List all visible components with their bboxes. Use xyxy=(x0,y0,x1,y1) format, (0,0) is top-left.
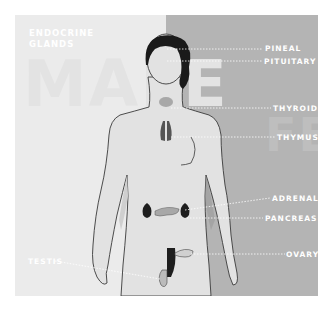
body-outline xyxy=(93,77,238,296)
label-pancreas: PANCREAS xyxy=(265,214,318,223)
label-adrenal: ADRENAL xyxy=(272,194,318,203)
label-ovary: OVARY xyxy=(286,250,318,259)
endocrine-diagram: MALE FEMALE xyxy=(15,15,318,296)
label-pituitary: PITUITARY xyxy=(264,57,316,66)
label-pineal: PINEAL xyxy=(265,44,301,53)
diagram-title: ENDOCRINE GLANDS xyxy=(29,28,94,50)
label-thyroid: THYROID xyxy=(273,104,318,113)
testis-gland xyxy=(159,270,167,287)
title-line-1: ENDOCRINE xyxy=(29,28,94,39)
label-thymus: THYMUS xyxy=(277,133,318,142)
label-testis: TESTIS xyxy=(28,257,63,266)
thyroid-gland xyxy=(159,97,173,107)
title-line-2: GLANDS xyxy=(29,39,94,50)
